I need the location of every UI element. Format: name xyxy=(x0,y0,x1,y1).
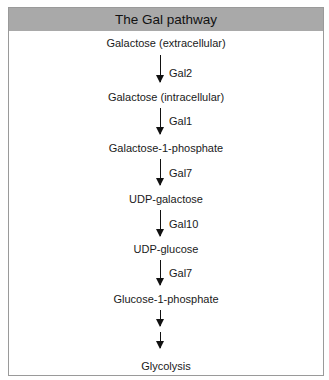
arrow-down-icon xyxy=(160,332,161,348)
arrow-down-icon xyxy=(160,310,161,326)
enzyme-label: Gal7 xyxy=(169,166,192,180)
enzyme-label: Gal10 xyxy=(169,217,198,231)
arrow-down-icon xyxy=(160,260,161,285)
arrow-down-icon xyxy=(160,210,161,236)
enzyme-label: Gal7 xyxy=(169,266,192,280)
metabolite-galactose-intracellular: Galactose (intracellular) xyxy=(9,90,323,104)
metabolite-galactose-extracellular: Galactose (extracellular) xyxy=(9,36,323,50)
metabolite-galactose-1-phosphate: Galactose-1-phosphate xyxy=(9,141,323,155)
metabolite-udp-galactose: UDP-galactose xyxy=(9,192,323,206)
metabolite-glucose-1-phosphate: Glucose-1-phosphate xyxy=(9,292,323,306)
enzyme-label: Gal2 xyxy=(169,66,192,80)
metabolite-udp-glucose: UDP-glucose xyxy=(9,242,323,256)
enzyme-label: Gal1 xyxy=(169,114,192,128)
pathway-diagram: The Gal pathway Galactose (extracellular… xyxy=(8,7,324,376)
arrow-down-icon xyxy=(160,159,161,185)
arrow-down-icon xyxy=(160,108,161,134)
arrow-down-icon xyxy=(160,55,161,82)
diagram-title: The Gal pathway xyxy=(9,8,323,31)
glycolysis: Glycolysis xyxy=(9,359,323,373)
